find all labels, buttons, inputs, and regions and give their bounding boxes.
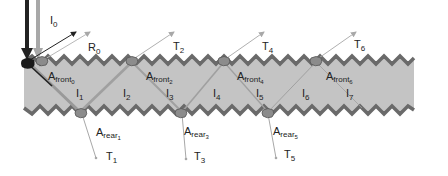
label-T4: T4 (262, 40, 274, 55)
front-escape-rays (132, 32, 356, 60)
label-T6: T6 (354, 38, 366, 53)
label-Arear1: Arear1 (96, 126, 122, 141)
entry-point-blob (21, 58, 35, 69)
label-T1: T1 (106, 150, 118, 165)
label-Arear5: Arear5 (273, 125, 299, 140)
label-Arear3: Arear3 (184, 125, 210, 140)
slab-body (24, 56, 414, 114)
label-incident: I0 (50, 14, 58, 29)
label-reflected: R0 (88, 41, 101, 56)
label-T2: T2 (173, 40, 185, 55)
blob-front-0 (36, 57, 48, 66)
blob-front-2 (126, 57, 138, 66)
label-T3: T3 (194, 150, 206, 165)
label-T5: T5 (284, 148, 296, 163)
blob-front-6 (310, 57, 322, 66)
blob-rear-1 (75, 109, 87, 118)
blob-rear-5 (262, 109, 274, 118)
blob-front-4 (218, 57, 230, 66)
blob-rear-3 (175, 109, 187, 118)
light-trapping-diagram: I0 R0 T2 T4 T6 Afront0 Afront2 Afront4 A… (0, 0, 448, 176)
incident-beam (21, 0, 43, 60)
